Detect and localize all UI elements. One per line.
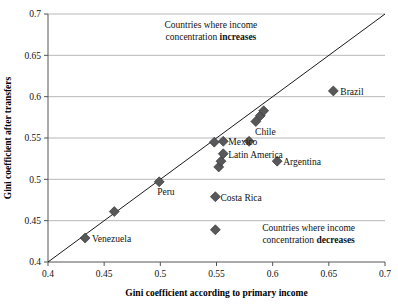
decreases-note-line1: Countries where income: [262, 223, 355, 233]
x-tick-label: 0.5: [154, 269, 166, 279]
data-point-label: Brazil: [340, 87, 364, 97]
x-tick-label: 0.4: [42, 269, 54, 279]
data-point-label: Chile: [255, 127, 276, 137]
decreases-note-line2: concentration decreases: [262, 235, 355, 245]
data-point-label: Costa Rica: [220, 193, 262, 203]
data-point-label: Latin America: [228, 150, 283, 160]
y-tick-label: 0.7: [29, 9, 41, 19]
y-tick-label: 0.5: [29, 175, 41, 185]
x-tick-label: 0.7: [379, 269, 391, 279]
chart-canvas: 0.70.650.60.550.50.450.40.40.450.50.550.…: [0, 0, 398, 307]
x-tick-label: 0.6: [267, 269, 279, 279]
y-tick-label: 0.6: [29, 92, 41, 102]
data-point-label: Peru: [157, 187, 175, 197]
anno-text-bold: increases: [220, 32, 257, 42]
x-tick-label: 0.45: [96, 269, 113, 279]
anno-text-bold: decreases: [316, 235, 355, 245]
data-point-label: Argentina: [283, 157, 322, 167]
y-tick-label: 0.65: [24, 51, 41, 61]
increases-note-line2: concentration increases: [165, 32, 256, 42]
y-tick-label: 0.4: [29, 257, 41, 267]
increases-note-line1: Countries where income: [164, 20, 257, 30]
anno-text-plain: concentration: [262, 235, 316, 245]
y-axis-title: Gini coefficient after transfers: [3, 76, 13, 199]
x-axis-title: Gini coefficient according to primary in…: [125, 288, 307, 298]
data-point-label: Venezuela: [92, 234, 132, 244]
anno-text-plain: concentration: [165, 32, 219, 42]
x-tick-label: 0.55: [208, 269, 225, 279]
y-tick-label: 0.55: [24, 133, 41, 143]
scatter-chart: 0.70.650.60.550.50.450.40.40.450.50.550.…: [0, 0, 398, 307]
y-tick-label: 0.45: [24, 216, 41, 226]
data-point-label: Mexico: [228, 137, 257, 147]
chart-background: [0, 0, 398, 307]
x-tick-label: 0.65: [321, 269, 338, 279]
